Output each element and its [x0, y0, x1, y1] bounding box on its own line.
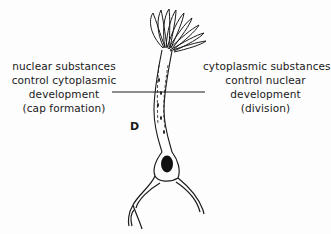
cytoplasmic-control-annotation: cytoplasmic substances control nuclear d… — [203, 59, 328, 115]
stalk-icon — [154, 50, 172, 152]
annotation-line: nuclear substances — [8, 59, 120, 73]
cap-icon — [150, 9, 206, 52]
annotation-line: (cap formation) — [8, 101, 120, 115]
annotation-line: cytoplasmic substances — [203, 59, 328, 73]
acetabularia-cell-drawing — [0, 0, 331, 234]
annotation-line: development — [8, 87, 120, 101]
annotation-line: development — [203, 87, 328, 101]
nuclear-control-annotation: nuclear substances control cytoplasmic d… — [8, 59, 120, 115]
nucleus-icon — [161, 156, 173, 173]
annotation-line: control nuclear — [203, 73, 328, 87]
annotation-line: control cytoplasmic — [8, 73, 120, 87]
panel-letter: D — [130, 120, 139, 133]
annotation-line: (division) — [203, 101, 328, 115]
